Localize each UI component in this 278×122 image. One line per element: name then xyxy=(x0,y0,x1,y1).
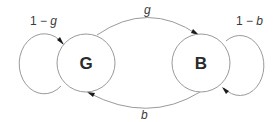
edge-label-g-to-b: g xyxy=(144,3,151,17)
node-g: G xyxy=(57,34,115,92)
edge-label-g-to-g: 1 − g xyxy=(30,14,57,28)
edge-b-to-g: b xyxy=(87,92,200,122)
edge-g-to-g: 1 − g xyxy=(19,14,64,94)
arrowhead-icon xyxy=(222,87,229,94)
edge-g-to-b: g xyxy=(97,3,199,35)
markov-diagram: 1 − g 1 − b g b G B xyxy=(0,0,278,122)
arrowhead-icon xyxy=(87,92,95,97)
node-b: B xyxy=(172,34,230,92)
node-g-label: G xyxy=(79,54,92,73)
arc-b-to-g xyxy=(89,92,200,108)
edge-label-b-to-g: b xyxy=(141,108,148,122)
node-b-label: B xyxy=(195,54,207,73)
arc-g-to-b xyxy=(97,18,198,36)
self-loop-g xyxy=(19,34,63,94)
edge-label-b-to-b: 1 − b xyxy=(236,14,263,28)
